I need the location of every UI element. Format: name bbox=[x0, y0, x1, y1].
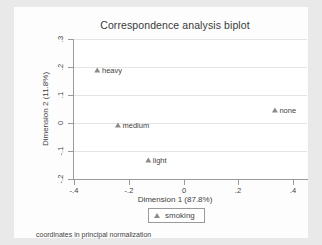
x-tick-mark bbox=[129, 180, 130, 185]
y-axis-line bbox=[73, 39, 74, 180]
data-point-label: none bbox=[279, 106, 296, 115]
y-tick-label: -.2 bbox=[56, 175, 65, 184]
x-tick-label: 0 bbox=[182, 186, 186, 195]
data-point-medium: medium bbox=[115, 121, 149, 130]
gridline bbox=[74, 95, 307, 96]
x-tick-mark bbox=[74, 180, 75, 185]
data-point-label: heavy bbox=[102, 65, 122, 74]
x-tick-mark bbox=[293, 180, 294, 185]
y-tick-mark bbox=[68, 179, 73, 180]
graph-region: Correspondence analysis biplot heavymedi… bbox=[14, 7, 308, 238]
data-point-heavy: heavy bbox=[94, 65, 122, 74]
x-axis-title: Dimension 1 (87.8%) bbox=[14, 195, 322, 204]
y-tick-mark bbox=[68, 123, 73, 124]
y-tick-label: 0 bbox=[56, 121, 65, 125]
data-point-label: light bbox=[153, 155, 167, 164]
y-tick-mark bbox=[68, 151, 73, 152]
data-point-none: none bbox=[272, 106, 296, 115]
x-tick-mark bbox=[238, 180, 239, 185]
x-tick-label: .4 bbox=[290, 186, 296, 195]
y-tick-label: .2 bbox=[56, 64, 65, 70]
figure-canvas: Correspondence analysis biplot heavymedi… bbox=[0, 0, 322, 245]
gridline bbox=[74, 151, 307, 152]
x-tick-label: .2 bbox=[235, 186, 241, 195]
y-tick-label: -.1 bbox=[56, 147, 65, 156]
y-tick-mark bbox=[68, 39, 73, 40]
y-tick-mark bbox=[68, 67, 73, 68]
x-axis-line bbox=[73, 179, 308, 180]
gridline bbox=[74, 123, 307, 124]
data-point-light: light bbox=[145, 155, 166, 164]
x-tick-label: -.2 bbox=[125, 186, 134, 195]
triangle-marker-icon bbox=[154, 213, 160, 218]
chart-legend[interactable]: smoking bbox=[148, 208, 205, 223]
gridline bbox=[74, 39, 307, 40]
x-tick-label: -.4 bbox=[70, 186, 79, 195]
chart-note: coordinates in principal normalization bbox=[36, 231, 151, 238]
plot-area: heavymediumlightnone bbox=[74, 39, 307, 179]
x-tick-mark bbox=[184, 180, 185, 185]
data-point-label: medium bbox=[123, 121, 150, 130]
triangle-marker-icon bbox=[145, 157, 151, 162]
legend-item-label: smoking bbox=[165, 211, 195, 220]
triangle-marker-icon bbox=[94, 67, 100, 72]
y-tick-label: .3 bbox=[56, 36, 65, 42]
y-tick-mark bbox=[68, 95, 73, 96]
chart-title: Correspondence analysis biplot bbox=[28, 19, 322, 31]
y-tick-label: .1 bbox=[56, 92, 65, 98]
triangle-marker-icon bbox=[115, 123, 121, 128]
y-axis-title: Dimension 2 (11.8%) bbox=[41, 72, 50, 146]
triangle-marker-icon bbox=[272, 108, 278, 113]
